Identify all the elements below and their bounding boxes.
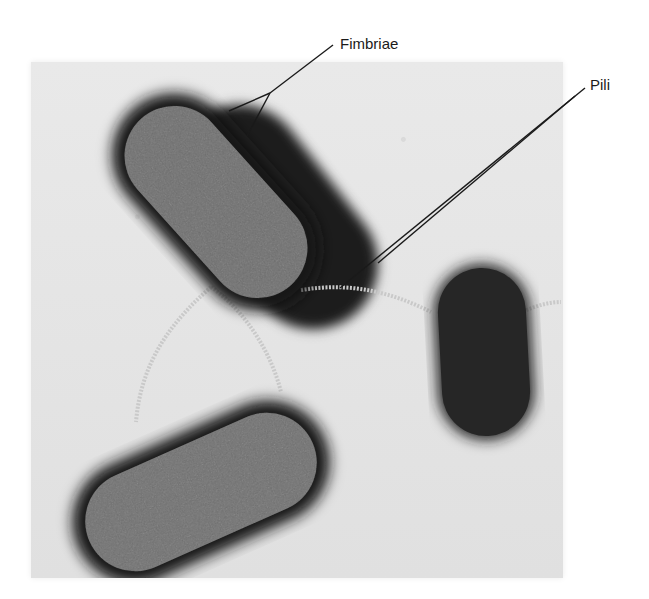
- fimbriae-leader-line: [270, 45, 333, 93]
- pili-label: Pili: [590, 76, 610, 93]
- leader-lines: [0, 0, 649, 599]
- fimbriae-leader-line-a: [229, 93, 270, 111]
- fimbriae-label: Fimbriae: [340, 35, 398, 52]
- pili-leader-line-b: [378, 96, 575, 263]
- fimbriae-leader-line-b: [247, 93, 270, 136]
